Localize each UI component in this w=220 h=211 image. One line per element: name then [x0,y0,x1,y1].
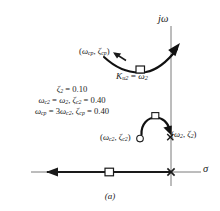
parameter-value: 0.10 [72,84,87,94]
root-locus-figure: jω σ (ωcp, ζcp) Ku2 = ω2 (ωc2, ζc2) (ω2,… [0,0,220,211]
gain-omega-subscript: 2 [145,74,148,81]
parameter-operator: = [85,106,94,116]
annotation-gain: Ku2 = ω2 [116,71,148,82]
parameter-line-omega-cp: ωcp = 3ωc2, ζcp = 0.40 [16,106,128,117]
annotation-closed-loop-pair: (ωc2, ζc2) [100,133,131,143]
leader-arrow-compensator-icon [113,52,121,58]
parameter-value: 0.40 [91,95,106,105]
imaginary-axis-label: jω [158,13,168,25]
real-axis-label-text: σ [203,163,208,174]
marker-compensated-pole [152,113,159,119]
parameter-operator: = [63,84,72,94]
paren-close: ) [194,129,197,139]
paren-close: ) [107,46,110,56]
upper-locus-arrow-icon [168,43,180,56]
marker-closed-loop-pole-circle-icon [137,135,144,142]
figure-caption: (a) [0,191,220,201]
parameter-line-zeta2: ζ2 = 0.10 [16,84,128,95]
imaginary-axis-label-text: jω [158,13,168,24]
marker-zero-on-real-axis [105,168,114,176]
real-axis-locus-arrow-icon [46,168,58,177]
real-axis-label: σ [203,163,208,175]
annotation-plant-pole-pair: (ω2, ζ2) [171,130,196,140]
parameter-operator: = [50,95,59,105]
annotation-compensator-pair: (ωcp, ζcp) [79,47,110,57]
parameter-operator: = [81,95,90,105]
pole-departure-arc [141,118,169,135]
parameter-list: ζ2 = 0.10ωc2 = ω2, ζc2 = 0.40ωcp = 3ωc2,… [16,84,128,117]
parameter-line-omega-c2: ωc2 = ω2, ζc2 = 0.40 [16,95,128,106]
paren-close: ) [128,132,131,142]
parameter-operator: = [47,106,56,116]
figure-caption-text: (a) [105,191,116,201]
parameter-value: 0.40 [94,106,109,116]
